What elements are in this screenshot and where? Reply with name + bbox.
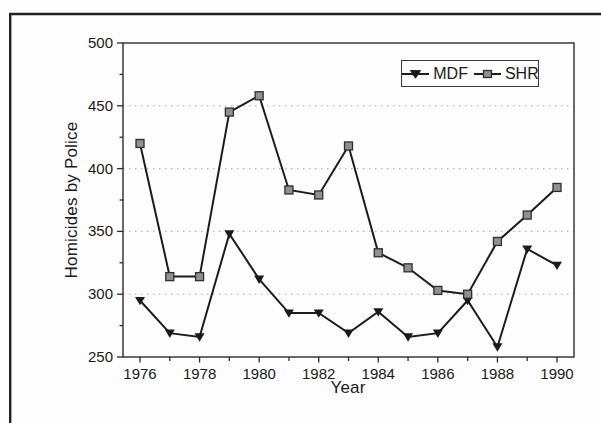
marker-shr	[434, 286, 442, 294]
series-line-shr	[140, 96, 557, 294]
legend-label-shr: SHR	[505, 66, 539, 82]
y-tick-label: 500	[88, 34, 113, 51]
x-tick-label: 1976	[123, 365, 156, 382]
x-tick-label: 1986	[421, 365, 454, 382]
marker-shr	[404, 264, 412, 272]
shr-line-square-icon	[473, 68, 502, 80]
plot-border	[123, 43, 574, 357]
x-axis-title: Year	[330, 378, 365, 398]
marker-shr	[493, 237, 501, 245]
x-tick-label: 1988	[481, 365, 514, 382]
marker-mdf	[195, 333, 205, 341]
x-tick-label: 1978	[183, 365, 216, 382]
marker-shr	[166, 273, 174, 281]
legend-label-mdf: MDF	[433, 66, 468, 82]
x-tick-label: 1984	[362, 365, 395, 382]
marker-mdf	[522, 245, 532, 253]
marker-shr	[136, 139, 144, 147]
marker-shr	[255, 92, 263, 100]
marker-shr	[345, 142, 353, 150]
marker-shr	[315, 191, 323, 199]
y-tick-label: 350	[88, 222, 113, 239]
y-tick-label: 400	[88, 160, 113, 177]
legend-item-shr: SHR	[473, 66, 539, 82]
y-tick-label: 450	[88, 97, 113, 114]
marker-mdf	[403, 333, 413, 341]
marker-shr	[553, 183, 561, 191]
marker-shr	[285, 186, 293, 194]
mdf-line-triangle-icon	[401, 68, 430, 80]
marker-mdf	[344, 330, 354, 338]
marker-shr	[464, 290, 472, 298]
marker-shr	[196, 273, 204, 281]
marker-shr	[225, 108, 233, 116]
y-tick-label: 250	[88, 348, 113, 365]
y-tick-label: 300	[88, 285, 113, 302]
marker-shr	[374, 249, 382, 257]
figure-canvas: 2503003504004505001976197819801982198419…	[0, 0, 601, 423]
x-tick-label: 1990	[540, 365, 573, 382]
x-tick-label: 1980	[242, 365, 275, 382]
marker-shr	[523, 211, 531, 219]
legend-item-mdf: MDF	[401, 66, 468, 82]
legend: MDF SHR	[401, 60, 539, 87]
marker-mdf	[492, 343, 502, 351]
marker-mdf	[552, 262, 562, 270]
y-axis-title: Homicides by Police	[62, 122, 82, 279]
